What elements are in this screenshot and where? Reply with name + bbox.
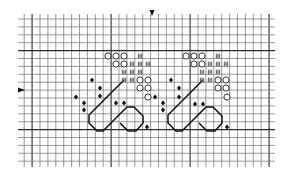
open-circle-symbol [145, 77, 151, 83]
hash-symbol [224, 62, 229, 67]
filled-diamond-symbol [169, 77, 173, 82]
filled-diamond-symbol [145, 124, 149, 129]
filled-diamond-symbol [161, 107, 165, 112]
open-circle-symbol [121, 61, 127, 67]
filled-diamond-symbol [122, 100, 126, 105]
open-circle-symbol [224, 94, 230, 100]
hash-symbol [130, 78, 135, 83]
hash-symbol [138, 62, 143, 67]
open-circle-symbol [121, 53, 127, 59]
hash-symbol [208, 78, 213, 83]
filled-diamond-symbol [225, 124, 229, 129]
open-circle-symbol [191, 53, 197, 59]
open-circle-symbol [113, 53, 119, 59]
open-circle-symbol [145, 94, 151, 100]
open-circle-symbol [145, 85, 151, 91]
backstitch-outlines [89, 80, 222, 131]
filled-diamond-symbol [82, 100, 86, 105]
filled-diamond-symbol [177, 94, 181, 99]
open-circle-symbol [223, 77, 229, 83]
hash-symbol [208, 70, 213, 75]
open-circle-symbol [137, 77, 143, 83]
open-circle-symbol [199, 53, 205, 59]
cross-stitch-chart [0, 0, 285, 179]
hash-symbol [138, 70, 143, 75]
open-circle-symbol [113, 61, 119, 67]
open-circle-symbol [215, 77, 221, 83]
hash-symbol [130, 70, 135, 75]
filled-diamond-symbol [114, 100, 118, 105]
hash-symbol [216, 62, 221, 67]
filled-diamond-symbol [74, 94, 78, 99]
filled-diamond-symbol [82, 107, 86, 112]
open-circle-symbol [105, 53, 111, 59]
filled-diamond-symbol [153, 94, 157, 99]
hash-symbol [122, 70, 127, 75]
filled-diamond-symbol [90, 77, 94, 82]
open-circle-symbol [191, 61, 197, 67]
center-markers [18, 10, 155, 93]
open-circle-symbol [199, 61, 205, 67]
hash-symbol [216, 54, 221, 59]
filled-diamond-symbol [161, 100, 165, 105]
hash-symbol [146, 62, 151, 67]
open-circle-symbol [223, 85, 229, 91]
hash-symbol [208, 62, 213, 67]
hash-symbol [130, 62, 135, 67]
stitch-symbols [74, 53, 230, 130]
open-circle-symbol [137, 85, 143, 91]
hash-symbol [200, 70, 205, 75]
hash-symbol [138, 54, 143, 59]
hash-symbol [216, 70, 221, 75]
open-circle-symbol [215, 85, 221, 91]
open-circle-symbol [183, 53, 189, 59]
